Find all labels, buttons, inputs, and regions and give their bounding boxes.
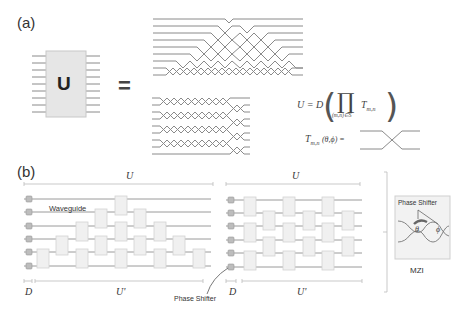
mzi-caption: MZI: [410, 266, 424, 275]
diagram-canvas: [0, 0, 456, 312]
product-symbol: ∏: [337, 89, 355, 114]
transfer-definition: Tm,n (θ,ϕ) =: [305, 133, 345, 146]
transfer-args: (θ,ϕ) =: [322, 135, 345, 144]
mesh-right-d-label: D: [229, 286, 236, 297]
mesh-right-u-label: U: [292, 170, 299, 181]
panel-b-label: (b): [17, 163, 35, 180]
reck-triangular-mesh: [153, 19, 303, 75]
mesh-left-d-label: D: [25, 286, 32, 297]
equation-lhs: U = D: [297, 99, 323, 110]
transfer-subscript: m,n: [311, 140, 320, 146]
mesh-left-u-label: U: [126, 170, 133, 181]
mesh-right-u-prime-label: U': [297, 286, 306, 297]
mzi-phi: ϕ: [436, 225, 440, 234]
waveguide-label: Waveguide: [49, 204, 86, 213]
phase-shifter-label: Phase Shifter: [174, 295, 216, 302]
equals-sign: =: [118, 73, 131, 99]
right-paren: ): [385, 86, 398, 126]
mesh-right-mzis: [244, 197, 354, 270]
beamsplitter-crossing: [360, 131, 420, 149]
mzi-theta: θ: [415, 225, 419, 234]
mesh-left-u-prime-label: U': [116, 286, 125, 297]
mesh-right-phase-shifters: [228, 197, 234, 270]
unitary-symbol: U: [57, 73, 71, 95]
clements-rectangular-mesh: [152, 98, 250, 154]
product-term: Tm,n: [361, 99, 375, 112]
product-subscript: (m,n)∈S: [332, 112, 352, 118]
mesh-left-phase-shifters: [26, 196, 32, 269]
phase-shifter-pointer: [207, 268, 228, 294]
left-paren: (: [323, 86, 336, 126]
term-subscript: m,n: [367, 106, 376, 112]
mzi-inset-title: Phase Shifter: [398, 199, 437, 206]
mzi-bracket: [383, 172, 387, 292]
